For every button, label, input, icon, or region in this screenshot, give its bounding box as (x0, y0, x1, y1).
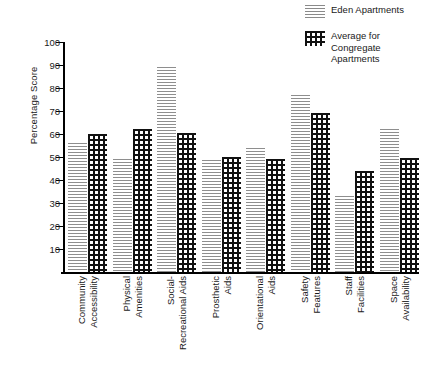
bar-eden (291, 95, 310, 272)
bar-average (177, 133, 196, 272)
x-category-label: Social-Recreational Aids (157, 276, 196, 371)
x-category-line: Amenities (134, 276, 144, 318)
x-category-line: Prosthetic (211, 276, 221, 318)
y-axis-line (63, 42, 65, 273)
x-category-line: Recreational Aids (178, 276, 188, 350)
x-category-line: Space (389, 276, 399, 303)
bar-average (133, 129, 152, 272)
x-category-line: Features (312, 276, 322, 314)
y-tick-label: 70 (49, 106, 60, 117)
x-category-line: Facilities (356, 276, 366, 313)
y-tick-label: 20 (49, 221, 60, 232)
legend-label-eden-apartments: Eden Apartments (331, 4, 404, 16)
bar-eden (335, 196, 354, 272)
bar-average (311, 113, 330, 272)
bar-group (113, 42, 152, 272)
bar-average (400, 158, 419, 272)
x-category-line: Aids (267, 276, 277, 294)
bar-eden (68, 143, 87, 272)
bar-group (246, 42, 285, 272)
bar-group (380, 42, 419, 272)
x-axis-line (61, 272, 419, 274)
x-category-label: SafetyFeatures (291, 276, 330, 371)
bar-eden (157, 67, 176, 272)
bar-group (202, 42, 241, 272)
bar-group (291, 42, 330, 272)
bar-average (266, 159, 285, 272)
bar-average (88, 134, 107, 272)
bar-eden (202, 160, 221, 272)
x-category-line: Aids (223, 276, 233, 294)
x-category-label: ProstheticAids (202, 276, 241, 371)
x-category-line: Social- (166, 276, 176, 305)
legend-item-eden-apartments: Eden Apartments (305, 4, 423, 20)
x-category-label: StaffFacilities (335, 276, 374, 371)
bar-eden (380, 129, 399, 272)
plot-area: 102030405060708090100 (63, 42, 363, 272)
bar-group (157, 42, 196, 272)
x-axis-category-labels: CommunityAccessibilityPhysicalAmenitiesS… (63, 276, 403, 371)
bar-eden (246, 148, 265, 272)
x-category-line: Safety (300, 276, 310, 303)
x-category-line: Staff (344, 276, 354, 295)
x-category-line: Community (77, 276, 87, 324)
y-tick-label: 60 (49, 129, 60, 140)
y-tick-label: 40 (49, 175, 60, 186)
y-tick-label: 30 (49, 198, 60, 209)
lines-swatch-icon (305, 5, 325, 20)
bar-eden (113, 159, 132, 272)
y-tick-label: 10 (49, 244, 60, 255)
x-category-line: Availability (401, 276, 411, 321)
x-category-line: Accessibility (89, 276, 99, 328)
y-axis-title: Percentage Score (28, 26, 39, 186)
bar-group (68, 42, 107, 272)
y-tick-label: 100 (44, 37, 60, 48)
x-category-line: Physical (122, 276, 132, 311)
y-tick-label: 80 (49, 83, 60, 94)
x-category-line: Orientational (255, 276, 265, 330)
y-tick-label: 90 (49, 60, 60, 71)
x-category-label: CommunityAccessibility (68, 276, 107, 371)
x-category-label: OrientationalAids (246, 276, 285, 371)
x-category-label: SpaceAvailability (380, 276, 419, 371)
bar-average (355, 171, 374, 272)
x-category-label: PhysicalAmenities (113, 276, 152, 371)
bar-average (222, 157, 241, 272)
bar-group (335, 42, 374, 272)
y-tick-label: 50 (49, 152, 60, 163)
